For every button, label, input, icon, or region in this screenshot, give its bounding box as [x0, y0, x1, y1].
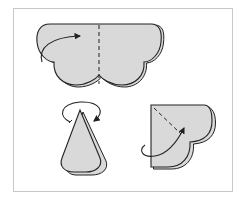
step-1-cloud [37, 24, 164, 87]
folding-diagram [0, 0, 238, 197]
step-2-cone [61, 102, 107, 175]
step-3-heart [142, 105, 216, 169]
